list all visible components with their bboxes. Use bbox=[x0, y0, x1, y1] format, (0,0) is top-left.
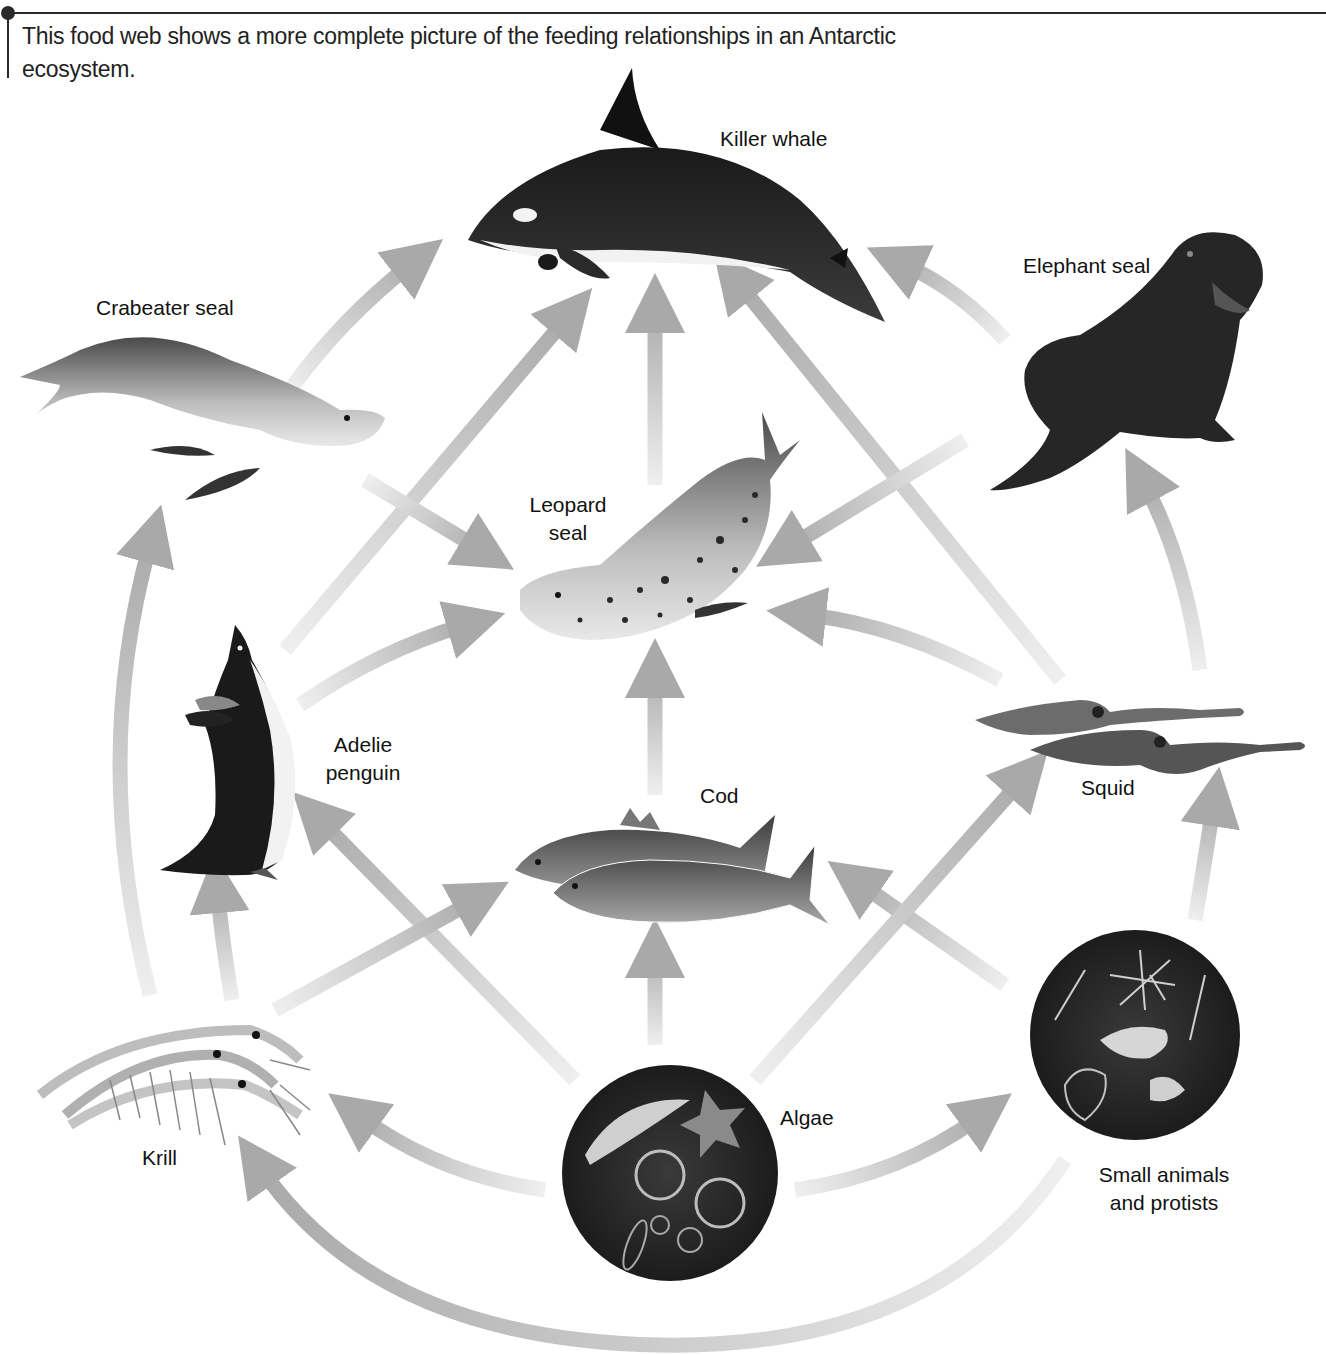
label-leopard-seal-line2: seal bbox=[549, 521, 588, 544]
label-killer-whale: Killer whale bbox=[720, 127, 827, 150]
arrow-algae-to-squid bbox=[755, 782, 1020, 1080]
label-adelie-penguin-line1: Adelie bbox=[334, 733, 392, 756]
arrow-squid-to-leopard bbox=[808, 615, 1000, 680]
squid-illustration bbox=[975, 700, 1305, 774]
arrow-squid-to-elephantseal bbox=[1145, 485, 1200, 670]
krill-illustration bbox=[40, 1030, 310, 1145]
label-cod: Cod bbox=[700, 784, 739, 807]
arrow-krill-to-penguin bbox=[218, 895, 232, 1000]
cod-illustration bbox=[515, 808, 830, 925]
killer-whale-illustration bbox=[468, 68, 885, 322]
adelie-penguin-illustration bbox=[160, 625, 295, 880]
arrow-krill-to-cod bbox=[275, 902, 472, 1010]
label-small-animals-line1: Small animals bbox=[1099, 1163, 1230, 1186]
label-krill: Krill bbox=[142, 1146, 177, 1169]
food-web-diagram: Killer whale Elephant seal Crabeater sea… bbox=[0, 0, 1326, 1355]
label-small-animals-line2: and protists bbox=[1110, 1191, 1219, 1214]
arrow-elephantseal-to-killerwhale bbox=[905, 265, 1005, 340]
arrow-krill-to-crabeater bbox=[120, 545, 150, 995]
arrow-algae-to-krill bbox=[362, 1118, 545, 1190]
label-adelie-penguin-line2: penguin bbox=[326, 761, 401, 784]
arrow-crabeater-to-killerwhale bbox=[290, 265, 410, 390]
algae-illustration bbox=[562, 1065, 778, 1281]
label-crabeater-seal: Crabeater seal bbox=[96, 296, 234, 319]
label-leopard-seal-line1: Leopard bbox=[529, 493, 606, 516]
label-squid: Squid bbox=[1081, 776, 1135, 799]
arrow-penguin-to-leopard bbox=[300, 625, 465, 705]
label-elephant-seal: Elephant seal bbox=[1023, 254, 1150, 277]
crabeater-seal-illustration bbox=[20, 337, 385, 500]
small-animals-protists-illustration bbox=[1030, 930, 1240, 1140]
arrow-smallanimals-to-squid bbox=[1195, 808, 1213, 920]
label-algae: Algae bbox=[780, 1106, 834, 1129]
